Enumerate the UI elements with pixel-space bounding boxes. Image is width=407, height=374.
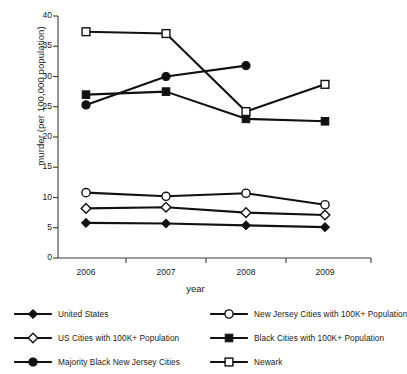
y-tick-label: 40: [24, 10, 52, 20]
y-tick-label: 30: [24, 71, 52, 81]
data-point-open-diamond: [81, 204, 91, 214]
legend-label: Black Cities with 100K+ Population: [254, 333, 384, 343]
x-tick-label: 2008: [226, 267, 266, 277]
legend-swatch-open-diamond: [14, 331, 52, 345]
data-point-filled-diamond: [320, 223, 329, 232]
data-point-filled-square: [225, 334, 233, 342]
data-point-open-circle: [162, 192, 170, 200]
data-point-open-square: [242, 108, 250, 116]
plot-area: [0, 0, 391, 300]
legend-swatch-open-circle: [210, 307, 248, 321]
data-point-open-square: [162, 30, 170, 38]
chart-legend: United StatesNew Jersey Cities with 100K…: [14, 307, 386, 369]
data-point-filled-circle: [242, 62, 250, 70]
data-point-filled-diamond: [28, 309, 37, 318]
series-1: [82, 189, 329, 209]
data-point-open-square: [321, 80, 329, 88]
y-tick-label: 35: [24, 40, 52, 50]
legend-item[interactable]: New Jersey Cities with 100K+ Population: [210, 307, 407, 321]
y-tick-label: 15: [24, 161, 52, 171]
legend-swatch-open-square: [210, 355, 248, 369]
series-line: [86, 32, 325, 112]
data-point-open-diamond: [161, 202, 171, 212]
data-point-filled-square: [82, 91, 90, 99]
series-0: [81, 218, 329, 231]
series-2: [81, 202, 330, 219]
series-line: [86, 193, 325, 205]
data-point-open-circle: [225, 310, 233, 318]
x-axis-title: year: [0, 283, 391, 294]
x-tick-label: 2009: [305, 267, 345, 277]
y-tick-label: 25: [24, 101, 52, 111]
series-line: [86, 223, 325, 227]
data-point-open-diamond: [320, 210, 330, 220]
legend-label: US Cities with 100K+ Population: [58, 333, 179, 343]
axis-spine: [58, 16, 371, 258]
data-point-filled-circle: [29, 358, 37, 366]
legend-item[interactable]: Black Cities with 100K+ Population: [210, 331, 384, 345]
data-point-filled-diamond: [161, 219, 170, 228]
data-point-filled-square: [321, 117, 329, 125]
legend-label: Majority Black New Jersey Cities: [58, 357, 180, 367]
data-point-open-diamond: [241, 208, 251, 218]
legend-item[interactable]: US Cities with 100K+ Population: [14, 331, 179, 345]
x-tick-label: 2006: [66, 267, 106, 277]
legend-label: New Jersey Cities with 100K+ Population: [254, 309, 407, 319]
data-point-open-diamond: [28, 333, 38, 343]
data-point-filled-circle: [162, 72, 170, 80]
legend-swatch-filled-diamond: [14, 307, 52, 321]
legend-swatch-filled-square: [210, 331, 248, 345]
series-line: [86, 207, 325, 215]
data-point-filled-diamond: [81, 218, 90, 227]
y-tick-label: 5: [24, 222, 52, 232]
y-tick-label: 0: [24, 252, 52, 262]
data-point-filled-circle: [82, 101, 90, 109]
x-tick-label: 2007: [146, 267, 186, 277]
data-point-open-square: [225, 358, 233, 366]
data-point-open-square: [82, 28, 90, 36]
series-5: [82, 28, 329, 116]
data-point-open-circle: [321, 201, 329, 209]
legend-item[interactable]: Majority Black New Jersey Cities: [14, 355, 180, 369]
series-4: [82, 62, 250, 110]
data-point-filled-diamond: [241, 221, 250, 230]
legend-item[interactable]: Newark: [210, 355, 282, 369]
legend-label: United States: [58, 309, 108, 319]
data-point-open-circle: [82, 189, 90, 197]
legend-label: Newark: [254, 357, 282, 367]
legend-swatch-filled-circle: [14, 355, 52, 369]
y-tick-label: 20: [24, 131, 52, 141]
data-point-filled-square: [162, 88, 170, 96]
series-line: [86, 66, 246, 105]
data-point-open-circle: [242, 189, 250, 197]
y-tick-label: 10: [24, 192, 52, 202]
legend-item[interactable]: United States: [14, 307, 108, 321]
